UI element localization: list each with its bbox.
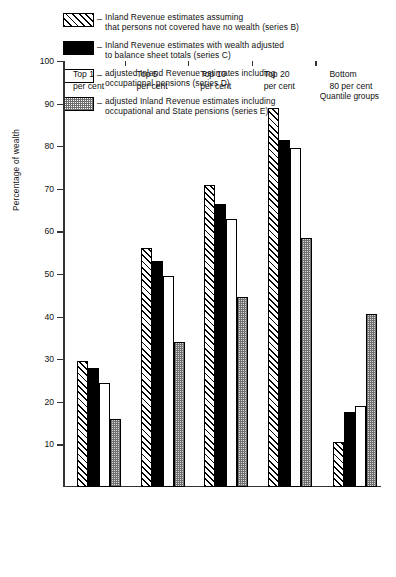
legend-item-series-c: – Inland Revenue estimates with wealth a…	[63, 40, 393, 60]
y-axis-tick-40	[57, 317, 63, 318]
y-axis-tick-label-30: 30	[44, 355, 54, 364]
bar-series-E-3	[301, 238, 312, 487]
bar-series-D-2	[226, 219, 237, 487]
x-axis-tick-2	[188, 61, 189, 66]
x-axis-label-0-line2: per cent	[73, 81, 104, 93]
bar-series-C-3	[279, 140, 290, 487]
legend-label-series-c: Inland Revenue estimates with wealth adj…	[105, 40, 284, 60]
plot-area: Percentage of wealth 1009080706050403020…	[63, 61, 381, 487]
legend-swatch-solid-black-icon	[63, 41, 94, 55]
y-axis-tick-100	[57, 61, 63, 62]
y-axis-tick-30	[57, 359, 63, 360]
bar-series-C-1	[152, 261, 163, 487]
y-axis-tick-label-80: 80	[44, 142, 54, 151]
y-axis-title: Percentage of wealth	[11, 129, 21, 211]
x-axis-label-0: Top 1per cent	[73, 69, 104, 92]
bar-series-E-2	[237, 297, 248, 487]
x-axis-label-3-line2: per cent	[264, 81, 295, 93]
y-axis-tick-label-70: 70	[44, 185, 54, 194]
legend-dash: –	[94, 40, 105, 53]
y-axis-tick-70	[57, 189, 63, 190]
bar-series-C-0	[88, 368, 99, 487]
x-axis-label-1-line2: per cent	[137, 81, 168, 93]
x-axis-label-2-line1: Top 10	[200, 69, 231, 81]
y-axis-tick-label-100: 100	[40, 57, 54, 66]
x-axis-title: Quantile groups	[320, 91, 379, 101]
y-axis-tick-label-50: 50	[44, 270, 54, 279]
y-axis-tick-10	[57, 444, 63, 445]
y-axis-tick-label-90: 90	[44, 99, 54, 108]
bar-series-C-4	[344, 412, 355, 487]
bar-group-4	[333, 314, 377, 487]
legend-item-series-b: – Inland Revenue estimates assuming that…	[63, 12, 393, 32]
bar-group-3	[268, 108, 312, 487]
x-axis-label-2: Top 10per cent	[200, 69, 231, 92]
y-axis-tick-label-20: 20	[44, 398, 54, 407]
bar-series-D-0	[99, 383, 110, 487]
y-axis-tick-80	[57, 146, 63, 147]
bar-series-B-3	[268, 108, 279, 487]
bar-group-2	[204, 185, 248, 487]
y-axis-line	[63, 61, 65, 487]
bar-group-0	[77, 361, 121, 487]
y-axis-tick-60	[57, 231, 63, 232]
x-axis-tick-1	[125, 61, 126, 66]
y-axis-tick-label-40: 40	[44, 312, 54, 321]
legend-label-series-b-line1: Inland Revenue estimates assuming	[105, 12, 243, 22]
y-axis-tick-90	[57, 104, 63, 105]
bar-series-D-1	[163, 276, 174, 487]
y-axis-tick-label-10: 10	[44, 440, 54, 449]
legend-label-series-b-line2: that persons not covered have no wealth …	[105, 22, 299, 32]
bar-group-1	[141, 248, 185, 487]
x-axis-label-1: Top 5per cent	[137, 69, 168, 92]
bar-series-B-2	[204, 185, 215, 487]
legend-label-series-c-line2: to balance sheet totals (series C)	[105, 50, 231, 60]
bar-series-B-0	[77, 361, 88, 487]
x-axis-label-0-line1: Top 1	[73, 69, 104, 81]
y-axis-tick-20	[57, 402, 63, 403]
bar-series-E-0	[110, 419, 121, 487]
x-axis-label-1-line1: Top 5	[137, 69, 168, 81]
x-axis-label-3-line1: Top 20	[264, 69, 295, 81]
bar-series-C-2	[215, 204, 226, 487]
legend-label-series-c-line1: Inland Revenue estimates with wealth adj…	[105, 40, 284, 50]
legend-swatch-hatched-diagonal-icon	[63, 13, 94, 27]
x-axis-label-4: Bottom80 per cent	[329, 69, 372, 92]
legend-dash: –	[94, 12, 105, 25]
wealth-distribution-bar-chart: – Inland Revenue estimates assuming that…	[0, 0, 396, 577]
legend-label-series-b: Inland Revenue estimates assuming that p…	[105, 12, 299, 32]
x-axis-tick-4	[315, 61, 316, 66]
bar-series-B-4	[333, 442, 344, 487]
bar-series-D-3	[290, 148, 301, 487]
y-axis-tick-label-60: 60	[44, 227, 54, 236]
bar-series-E-1	[174, 342, 185, 487]
y-axis-tick-50	[57, 274, 63, 275]
x-axis-label-2-line2: per cent	[200, 81, 231, 93]
bar-series-E-4	[366, 314, 377, 487]
bar-series-B-1	[141, 248, 152, 487]
x-axis-label-4-line1: Bottom	[329, 69, 372, 81]
x-axis-label-3: Top 20per cent	[264, 69, 295, 92]
bar-series-D-4	[355, 406, 366, 487]
x-axis-tick-3	[252, 61, 253, 66]
